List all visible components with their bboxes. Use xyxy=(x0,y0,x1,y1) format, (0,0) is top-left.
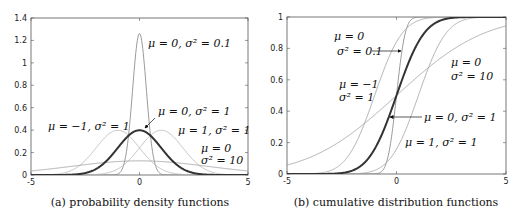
x-tick-label: 0 xyxy=(394,177,399,186)
y-tick-label: 0.8 xyxy=(14,81,27,90)
series-annotation: σ² = 1 xyxy=(339,91,374,104)
annotation-arrow xyxy=(145,118,155,128)
series-annotation: μ = −1 xyxy=(339,78,379,91)
series-annotation: μ = 0, σ² = 1 xyxy=(158,105,230,118)
y-tick-label: 0.6 xyxy=(14,104,27,113)
y-tick-label: 1.4 xyxy=(14,14,27,23)
series-line xyxy=(287,17,506,174)
cdf-chart-caption: (b) cumulative distribution functions xyxy=(294,196,499,209)
series-annotation: μ = 1, σ² = 1 xyxy=(178,124,250,137)
series-annotation: μ = 1, σ² = 1 xyxy=(405,136,477,149)
y-tick-label: 0.2 xyxy=(270,139,283,148)
y-tick-label: 0.8 xyxy=(270,44,283,53)
series-annotation: μ = −1, σ² = 1 xyxy=(48,120,130,133)
y-tick-label: 1.2 xyxy=(14,36,27,45)
y-tick-label: 1 xyxy=(22,59,27,68)
series-annotation: μ = 0 xyxy=(334,30,364,43)
pdf-chart-caption: (a) probability density functions xyxy=(51,196,230,209)
x-tick-label: -5 xyxy=(283,177,291,186)
pdf-chart: 00.20.40.60.811.21.4-505μ = 0, σ² = 0.1μ… xyxy=(14,14,250,187)
series-annotation: μ = 0 xyxy=(451,56,481,69)
series-annotation: σ² = 10 xyxy=(451,70,493,83)
x-tick-label: 0 xyxy=(137,178,142,187)
y-tick-label: 0.6 xyxy=(270,76,283,85)
x-tick-label: 5 xyxy=(245,178,250,187)
series-annotation: μ = 0, σ² = 1 xyxy=(424,111,496,124)
chart-canvas: 00.20.40.60.811.21.4-505μ = 0, σ² = 0.1μ… xyxy=(0,0,523,213)
y-tick-label: 0.4 xyxy=(14,126,27,135)
x-tick-label: 5 xyxy=(503,177,508,186)
y-tick-label: 0.2 xyxy=(14,149,27,158)
series-annotation: σ² = 0.1 xyxy=(337,45,383,58)
x-tick-label: -5 xyxy=(27,178,35,187)
series-annotation: μ = 0, σ² = 0.1 xyxy=(148,37,231,50)
y-tick-label: 0.4 xyxy=(270,107,283,116)
series-annotation: σ² = 10 xyxy=(201,154,243,167)
y-tick-label: 1 xyxy=(278,13,283,22)
cdf-chart: 00.20.40.60.81-505μ = 0σ² = 0.1μ = −1σ² … xyxy=(270,13,508,186)
